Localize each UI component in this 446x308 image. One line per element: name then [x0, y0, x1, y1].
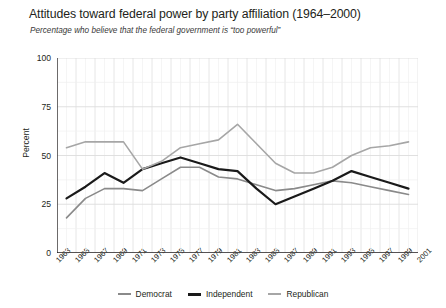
legend-item: Republican — [268, 289, 328, 299]
y-axis-label: Percent — [21, 113, 31, 173]
series-canvas — [57, 58, 418, 253]
y-tick-label: 100 — [17, 53, 51, 63]
chart-title: Attitudes toward federal power by party … — [29, 7, 361, 21]
plot-area — [57, 58, 418, 253]
chart-figure: Attitudes toward federal power by party … — [0, 0, 446, 308]
y-tick-label: 25 — [17, 199, 51, 209]
legend-swatch-icon — [268, 293, 281, 295]
chart-legend: DemocratIndependentRepublican — [0, 289, 446, 299]
legend-label: Democrat — [136, 289, 172, 299]
y-tick-label: 50 — [17, 151, 51, 161]
chart-subtitle: Percentage who believe that the federal … — [30, 26, 280, 35]
legend-item: Democrat — [118, 289, 172, 299]
y-tick-label: 75 — [17, 102, 51, 112]
legend-label: Republican — [286, 289, 328, 299]
legend-swatch-icon — [188, 293, 201, 296]
legend-item: Independent — [188, 289, 253, 299]
legend-swatch-icon — [118, 293, 131, 295]
legend-label: Independent — [206, 289, 253, 299]
y-tick-label: 0 — [17, 248, 51, 258]
